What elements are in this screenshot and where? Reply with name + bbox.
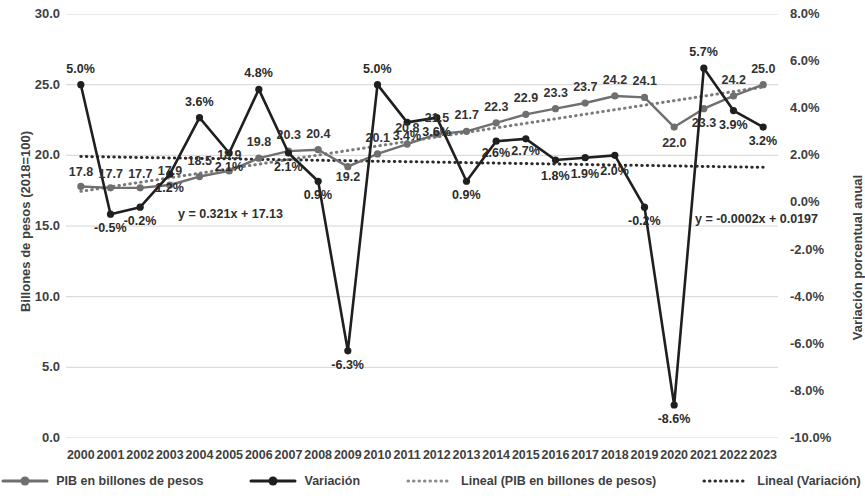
data-point <box>196 173 203 180</box>
variacion-value-label: 4.8% <box>244 67 273 80</box>
trendline-equation-pib: y = 0.321x + 17.13 <box>178 208 283 221</box>
legend-item[interactable]: PIB en billones de pesos <box>1 474 203 488</box>
data-point <box>700 65 707 72</box>
variacion-value-label: 1.8% <box>541 170 570 183</box>
pib-value-label: 18.5 <box>188 155 212 168</box>
pib-value-label: 21.7 <box>455 109 479 122</box>
y-tick-right: -10.0% <box>790 431 850 444</box>
y-tick-right: -8.0% <box>790 384 850 397</box>
pib-value-label: 17.9 <box>158 165 182 178</box>
pib-value-label: 20.1 <box>366 132 390 145</box>
pib-value-label: 23.3 <box>692 117 716 130</box>
legend-item[interactable]: Lineal (PIB en billones de pesos) <box>406 474 656 488</box>
trendline <box>81 157 763 168</box>
legend-item[interactable]: Variación <box>249 474 360 488</box>
variacion-value-label: 0.9% <box>452 189 481 202</box>
pib-value-label: 25.0 <box>751 63 775 76</box>
variacion-value-label: -0.2% <box>628 215 661 228</box>
data-point <box>196 114 203 121</box>
data-point <box>611 152 618 159</box>
legend-label: Variación <box>304 474 360 488</box>
data-point <box>255 86 262 93</box>
legend-dotted-icon <box>702 474 750 488</box>
pib-value-label: 23.7 <box>573 81 597 94</box>
data-point <box>641 204 648 211</box>
data-point <box>522 135 529 142</box>
data-point <box>344 347 351 354</box>
data-point <box>582 99 589 106</box>
data-point <box>760 123 767 130</box>
data-point <box>463 178 470 185</box>
data-point <box>493 138 500 145</box>
legend-dotted-icon <box>406 474 454 488</box>
variacion-value-label: 2.0% <box>600 165 629 178</box>
pib-value-label: 24.2 <box>603 74 627 87</box>
chart-legend: PIB en billones de pesosVariaciónLineal … <box>0 466 862 496</box>
data-point <box>137 204 144 211</box>
legend-line-marker-icon <box>249 474 297 488</box>
variacion-value-label: 3.6% <box>422 126 451 139</box>
data-point <box>374 150 381 157</box>
y-tick-right: -4.0% <box>790 290 850 303</box>
variacion-value-label: 3.4% <box>393 130 422 143</box>
pib-value-label: 24.1 <box>633 75 657 88</box>
pib-value-label: 17.7 <box>128 168 152 181</box>
variacion-value-label: 2.7% <box>511 145 540 158</box>
data-point <box>374 81 381 88</box>
legend-item[interactable]: Lineal (Variación) <box>702 474 861 488</box>
variacion-value-label: 2.1% <box>274 161 303 174</box>
data-point <box>315 178 322 185</box>
variacion-value-label: 1.9% <box>571 168 600 181</box>
x-tick-label: 2023 <box>742 449 784 462</box>
legend-label: Lineal (Variación) <box>757 474 861 488</box>
data-point <box>137 184 144 191</box>
variacion-value-label: 1.2% <box>155 182 184 195</box>
pib-value-label: 17.8 <box>69 166 93 179</box>
data-point <box>77 81 84 88</box>
variacion-value-label: 5.0% <box>363 63 392 76</box>
y-tick-right: 2.0% <box>790 148 850 161</box>
pib-value-label: 20.3 <box>277 129 301 142</box>
data-point <box>760 81 767 88</box>
data-point <box>671 123 678 130</box>
data-point <box>730 92 737 99</box>
pib-value-label: 21.5 <box>425 112 449 125</box>
data-point <box>611 92 618 99</box>
legend-line-marker-icon <box>1 474 49 488</box>
pib-value-label: 22.9 <box>514 92 538 105</box>
data-point <box>285 149 292 156</box>
variacion-value-label: 2.1% <box>215 161 244 174</box>
y-tick-left: 30.0 <box>8 7 60 20</box>
y-tick-right: 0.0% <box>790 195 850 208</box>
pib-value-label: 24.2 <box>722 74 746 87</box>
y-tick-left: 25.0 <box>8 78 60 91</box>
variacion-value-label: -8.6% <box>658 413 691 426</box>
trendline-equation-variacion: y = -0.0002x + 0.0197 <box>695 213 818 226</box>
data-point <box>493 119 500 126</box>
y-tick-left: 0.0 <box>8 431 60 444</box>
data-point <box>463 128 470 135</box>
y-tick-right: 8.0% <box>790 7 850 20</box>
data-point <box>730 107 737 114</box>
data-point <box>552 156 559 163</box>
y-tick-left: 20.0 <box>8 148 60 161</box>
y-axis-right-title: Variación porcentual anual <box>850 143 865 373</box>
variacion-value-label: 3.9% <box>719 119 748 132</box>
variacion-value-label: 5.0% <box>66 63 95 76</box>
series-line <box>81 68 763 405</box>
data-point <box>671 401 678 408</box>
variacion-value-label: 2.6% <box>482 147 511 160</box>
data-point <box>107 211 114 218</box>
data-point <box>255 155 262 162</box>
pib-value-label: 20.4 <box>306 128 330 141</box>
pib-value-label: 23.3 <box>544 87 568 100</box>
y-tick-left: 10.0 <box>8 290 60 303</box>
pib-value-label: 17.7 <box>99 168 123 181</box>
data-point <box>641 94 648 101</box>
data-point <box>107 184 114 191</box>
data-point <box>315 146 322 153</box>
pib-value-label: 22.0 <box>662 137 686 150</box>
pib-value-label: 19.2 <box>336 171 360 184</box>
variacion-value-label: -6.3% <box>331 359 364 372</box>
